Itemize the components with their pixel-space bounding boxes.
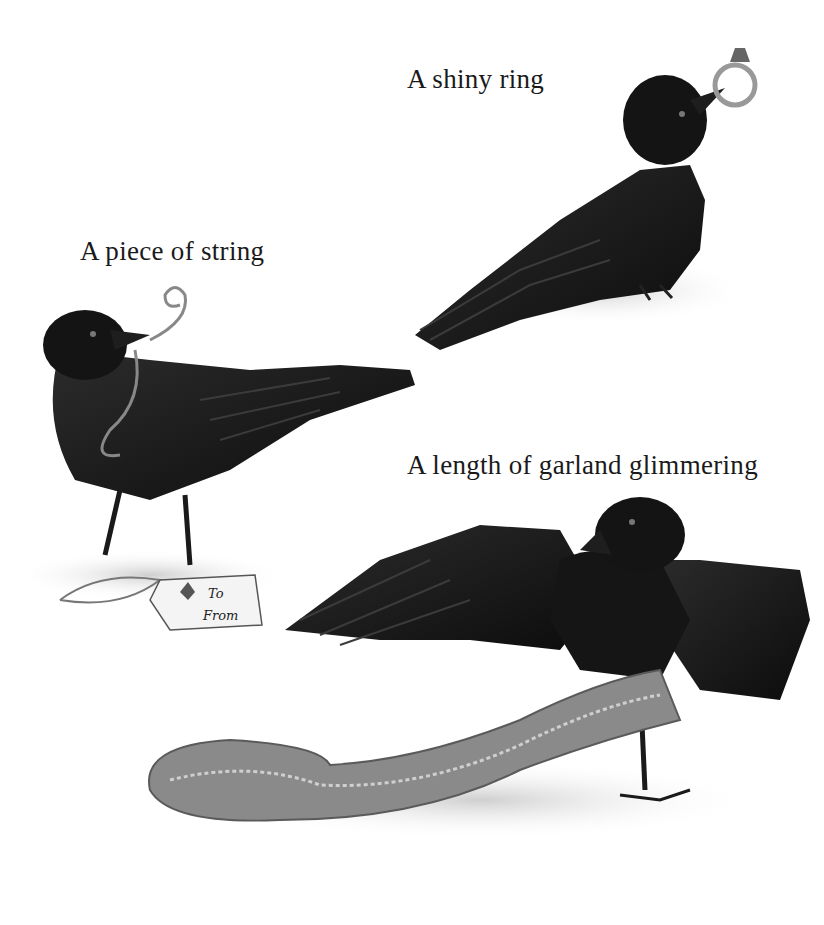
string-icon — [150, 288, 186, 341]
ring-icon — [715, 65, 755, 105]
crow-with-ring — [415, 48, 755, 350]
crow-head — [595, 497, 685, 573]
crow-eye — [679, 111, 685, 117]
crow-left-wing — [285, 525, 600, 650]
crow-with-garland — [149, 497, 810, 840]
crow-eye — [90, 331, 96, 337]
crow-beak — [110, 330, 150, 350]
crow-head — [623, 75, 707, 165]
illustration: To From — [0, 0, 824, 925]
tag-from-text: From — [202, 608, 238, 623]
ring-gem — [730, 48, 750, 62]
crow-eye — [629, 519, 635, 525]
crow-with-string: To From — [10, 288, 415, 631]
tag-to-text: To — [208, 586, 224, 601]
